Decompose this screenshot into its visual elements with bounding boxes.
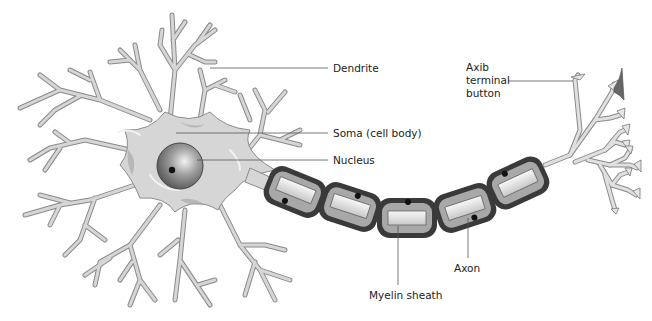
dendrite-label: Dendrite (333, 62, 379, 75)
neuron-diagram (0, 0, 652, 321)
soma-label: Soma (cell body) (333, 127, 422, 140)
nucleolus (169, 167, 175, 173)
nucleus (157, 143, 203, 189)
myelin-sheath-segments (260, 152, 554, 238)
axon-label: Axon (454, 262, 480, 275)
myelin-sheath-label: Myelin sheath (369, 289, 442, 302)
nucleus-label: Nucleus (333, 154, 375, 167)
axon-terminal-label-line3: button (466, 87, 510, 100)
axon-terminal-label-line2: terminal (466, 74, 510, 87)
axon-terminal-label: Axib terminal button (466, 61, 510, 100)
axon-terminal-label-line1: Axib (466, 61, 510, 74)
